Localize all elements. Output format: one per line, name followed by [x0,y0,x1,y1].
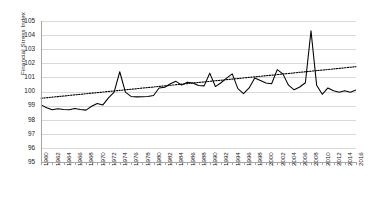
x-tick-label: 1976 [133,152,139,166]
x-tick-label: 1964 [66,152,72,166]
x-tick-label: 2000 [268,152,274,166]
x-tick-label: 2014 [347,152,353,166]
y-tick-label: 98 [15,117,35,123]
x-tick-label: 2012 [336,152,342,166]
y-tick-label: 99 [15,102,35,108]
x-tick-label: 1998 [257,152,263,166]
y-tick-label: 97 [15,131,35,137]
x-tick-label: 2010 [325,152,331,166]
y-tick-label: 95 [15,159,35,165]
x-tick-label: 1966 [77,152,83,166]
x-tick-label: 1994 [235,152,241,166]
plot-area [41,21,356,162]
x-tick-label: 1996 [246,152,252,166]
y-tick-label: 103 [15,46,35,52]
y-tick-label: 105 [15,18,35,24]
trend-line [41,67,356,99]
x-tick-label: 1978 [145,152,151,166]
x-tick-label: 1986 [190,152,196,166]
x-tick-label: 2006 [302,152,308,166]
x-tick-label: 2002 [280,152,286,166]
x-tick-label: 2004 [291,152,297,166]
x-tick-label: 2008 [313,152,319,166]
y-tick-label: 104 [15,32,35,38]
x-tick-label: 1992 [223,152,229,166]
x-tick-label: 1982 [167,152,173,166]
x-tick-label: 2016 [358,152,364,166]
x-tick-label: 1984 [178,152,184,166]
y-tick-label: 96 [15,145,35,151]
y-tick-label: 101 [15,74,35,80]
x-tick-label: 1970 [100,152,106,166]
financial-stress-index-chart: Financial Stress Index 95969798991001011… [0,0,370,203]
x-tick-label: 1988 [201,152,207,166]
x-tick-label: 1972 [111,152,117,166]
x-tick-label: 1962 [55,152,61,166]
data-line [41,31,356,110]
x-tick-label: 1980 [156,152,162,166]
x-tick-label: 1968 [88,152,94,166]
y-tick-label: 100 [15,88,35,94]
x-tick-label: 1960 [43,152,49,166]
x-tick-label: 1974 [122,152,128,166]
x-tick-label: 1990 [212,152,218,166]
y-axis-line [41,21,42,162]
y-tick-label: 102 [15,60,35,66]
series-lines [41,21,356,162]
